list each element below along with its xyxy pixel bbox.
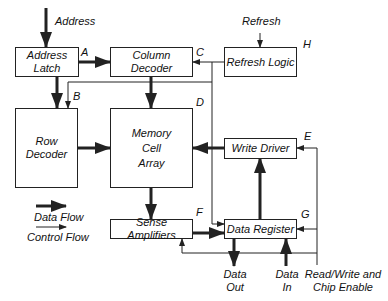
data-register-label: Data Register	[227, 223, 294, 236]
address-latch-line2: Latch	[27, 62, 67, 75]
write-driver-block: Write Driver	[224, 138, 297, 159]
data-out-label: Data Out	[222, 268, 248, 294]
data-in-line1: Data	[274, 268, 300, 281]
tag-h: H	[303, 38, 311, 50]
data-register-block: Data Register	[224, 219, 297, 239]
column-decoder-label: Column Decoder	[111, 49, 192, 75]
legend-data-flow-label: Data Flow	[34, 211, 84, 224]
tag-e: E	[304, 130, 311, 142]
write-driver-label: Write Driver	[231, 142, 289, 155]
tag-b: B	[73, 90, 80, 102]
refresh-label: Refresh	[242, 15, 281, 28]
rw-chip-enable-label: Read/Write and Chip Enable	[300, 268, 386, 294]
sense-amplifiers-block: Sense Amplifiers	[110, 219, 193, 239]
rw-line1: Read/Write and	[300, 268, 386, 281]
row-decoder-line2: Decoder	[26, 148, 68, 161]
row-decoder-line1: Row	[26, 135, 68, 148]
tag-g: G	[301, 208, 310, 220]
memory-array-line1: Memory	[132, 126, 172, 141]
memory-array-line2: Cell	[132, 141, 172, 156]
data-out-line2: Out	[222, 281, 248, 294]
b-control-line	[68, 82, 212, 108]
refresh-logic-label: Refresh Logic	[227, 56, 295, 69]
address-latch-block: AddressLatch	[15, 47, 79, 77]
address-label: Address	[55, 15, 95, 28]
row-decoder-block: RowDecoder	[15, 108, 78, 188]
refresh-logic-block: Refresh Logic	[224, 47, 297, 77]
data-out-line1: Data	[222, 268, 248, 281]
rw-to-sense-line	[182, 239, 317, 253]
tag-f: F	[196, 206, 203, 218]
data-in-line2: In	[274, 281, 300, 294]
tag-a: A	[81, 46, 88, 58]
data-in-label: Data In	[274, 268, 300, 294]
sense-amplifiers-label: Sense Amplifiers	[111, 216, 192, 242]
legend-control-flow-label: Control Flow	[27, 231, 89, 244]
tag-d: D	[196, 96, 204, 108]
rw-line2: Chip Enable	[300, 281, 386, 294]
memory-cell-array-block: MemoryCellArray	[110, 108, 193, 188]
address-latch-line1: Address	[27, 49, 67, 62]
memory-array-line3: Array	[132, 156, 172, 171]
tag-c: C	[196, 46, 204, 58]
column-decoder-block: Column Decoder	[110, 47, 193, 77]
refresh-bus-line	[212, 62, 224, 224]
